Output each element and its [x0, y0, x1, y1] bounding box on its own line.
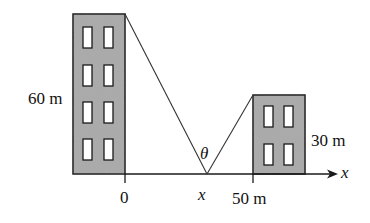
left-building — [73, 14, 125, 174]
window — [264, 144, 273, 165]
window — [83, 65, 92, 86]
window — [83, 139, 92, 160]
diagram-canvas — [0, 0, 370, 223]
line-left-top-to-x — [125, 14, 207, 174]
window — [284, 106, 293, 127]
line-right-top-to-x — [207, 95, 253, 174]
window — [104, 65, 113, 86]
window — [284, 144, 293, 165]
x-axis — [125, 170, 338, 184]
window — [83, 27, 92, 48]
fifty-meter-label: 50 m — [232, 190, 266, 207]
right-building — [253, 95, 305, 174]
window — [104, 27, 113, 48]
left-building-height-label: 60 m — [28, 90, 62, 107]
window — [264, 106, 273, 127]
origin-label: 0 — [120, 189, 129, 206]
window — [104, 102, 113, 123]
window — [104, 139, 113, 160]
window — [83, 102, 92, 123]
axis-x-label: x — [341, 164, 349, 181]
point-x-label: x — [198, 186, 206, 203]
right-building-height-label: 30 m — [311, 132, 345, 149]
angle-theta-label: θ — [200, 145, 208, 162]
